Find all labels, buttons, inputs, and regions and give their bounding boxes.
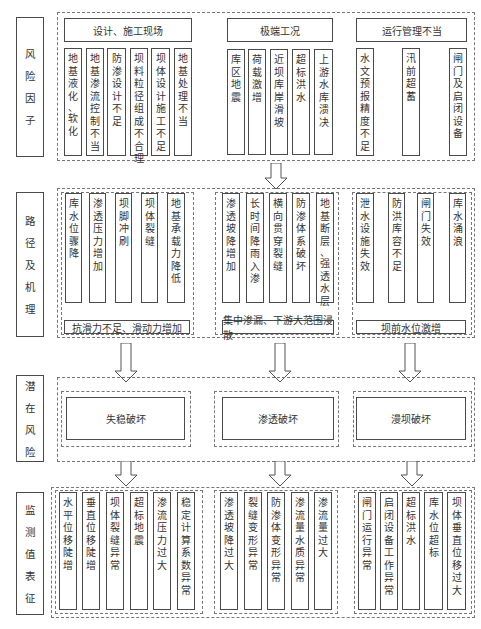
- risk-factor-item: 上游水库溃决: [314, 49, 333, 155]
- risk-factor-item: 防渗设计不足: [107, 48, 126, 156]
- path-item: 坝脚冲刷: [115, 193, 132, 303]
- monitoring-item: 闸门运行异常: [358, 492, 376, 610]
- monitoring-item: 库水位超标: [424, 492, 443, 610]
- monitoring-item: 超标洪水: [402, 492, 420, 610]
- risk-outcome-text: 渗透破坏: [258, 411, 298, 426]
- monitoring-item: 坝体裂缝异常: [106, 492, 124, 610]
- row-label-paths: 路径及机理: [16, 192, 44, 337]
- row-label-text: 监测值表征: [25, 501, 35, 607]
- risk-factor-item: 超标洪水: [292, 49, 310, 155]
- monitoring-item: 坝体垂直位移过大: [447, 492, 466, 610]
- path-item: 地基断层、强透水层: [316, 193, 334, 303]
- path-item: 库水位骤降: [65, 193, 82, 303]
- path-result-text: 抗滑力不足、滑动力增加: [72, 320, 182, 335]
- path-result-stability: 抗滑力不足、滑动力增加: [64, 320, 190, 334]
- row-label-text: 潜在风险: [25, 377, 35, 461]
- risk-factor-item: 地基液化、软化: [64, 48, 82, 156]
- group-title-text: 设计、施工现场: [93, 23, 163, 38]
- monitoring-item: 渗流压力过大: [153, 492, 171, 610]
- path-result-overtopping: 坝前水位激增: [356, 320, 466, 334]
- risk-factor-item: 水文预报精度不足: [356, 48, 374, 156]
- monitoring-item: 启闭设备工作异常: [380, 492, 398, 610]
- risk-outcome-text: 失稳破坏: [106, 411, 146, 426]
- monitoring-item: 水平位移陡增: [59, 492, 77, 610]
- path-item: 长时间降雨入渗: [246, 193, 264, 303]
- monitoring-item: 防渗体变形异常: [267, 492, 285, 610]
- risk-outcome-instability: 失稳破坏: [66, 397, 185, 440]
- risk-group-title-extreme: 极端工况: [227, 18, 333, 42]
- down-arrow-icon: [114, 461, 138, 487]
- path-result-seepage: 集中渗漏、下游大范围浸散: [222, 320, 334, 334]
- path-item: 防洪库容不足: [388, 193, 405, 303]
- risk-factor-item: 库区地震: [227, 49, 245, 155]
- path-item: 地基承载力降低: [167, 193, 185, 303]
- risk-factor-item: 地基渗流控制不当: [86, 48, 104, 156]
- path-result-text: 坝前水位激增: [381, 320, 441, 335]
- path-item: 库水涌浪: [449, 193, 466, 303]
- down-arrow-icon: [268, 461, 292, 487]
- monitoring-item: 稳定计算系数异常: [177, 492, 195, 610]
- down-arrow-icon: [400, 461, 424, 487]
- risk-factor-item: 地基处理不当: [174, 48, 192, 156]
- monitoring-item: 渗流量过大: [314, 492, 332, 610]
- risk-outcome-text: 漫坝破坏: [391, 411, 431, 426]
- risk-outcome-seepage: 渗透破坏: [222, 397, 334, 440]
- row-label-text: 路径及机理: [25, 212, 35, 318]
- group-title-text: 运行管理不当: [382, 23, 442, 38]
- path-item: 渗透坡降增加: [222, 193, 240, 303]
- risk-group-title-design: 设计、施工现场: [64, 18, 192, 42]
- row-label-potential-risks: 潜在风险: [16, 375, 44, 462]
- path-item: 闸门失效: [417, 193, 434, 303]
- risk-factor-item: 汛前超蓄: [402, 48, 420, 156]
- risk-factor-item: 坝体设计施工不足: [151, 48, 170, 156]
- monitoring-item: 垂直位移陡增: [82, 492, 100, 610]
- path-item: 防渗体系破坏: [292, 193, 310, 303]
- monitoring-item: 裂缝变形异常: [244, 492, 262, 610]
- risk-factor-item: 闸门及启闭设备: [449, 48, 467, 156]
- group-title-text: 极端工况: [260, 23, 300, 38]
- row-label-risk-factors: 风险因子: [16, 17, 44, 157]
- risk-factor-item: 荷载激增: [248, 49, 266, 155]
- down-arrow-icon: [264, 163, 288, 190]
- monitoring-item: 渗透坡降过大: [220, 492, 238, 610]
- risk-factor-item: 近坝库岸滑坡: [270, 49, 288, 155]
- path-result-text: 集中渗漏、下游大范围浸散: [223, 312, 333, 342]
- risk-outcome-overtopping: 漫坝破坏: [356, 397, 466, 440]
- monitoring-item: 超标地震: [130, 492, 148, 610]
- risk-group-title-operation: 运行管理不当: [356, 18, 467, 42]
- path-item: 泄水设施失效: [356, 193, 374, 303]
- risk-factor-item: 坝料粒径组成不合理: [130, 48, 148, 156]
- path-item: 坝体裂缝: [141, 193, 158, 303]
- path-item: 渗透压力增加: [89, 193, 106, 303]
- row-label-monitoring: 监测值表征: [16, 492, 44, 615]
- row-label-text: 风险因子: [25, 45, 35, 129]
- path-item: 横向贯穿裂缝: [269, 193, 287, 303]
- monitoring-item: 渗流量水质异常: [291, 492, 309, 610]
